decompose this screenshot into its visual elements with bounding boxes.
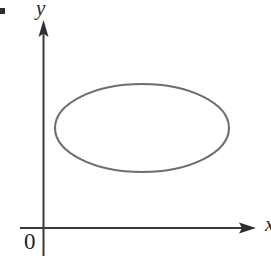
math-figure-canvas: y x 0: [0, 0, 271, 256]
y-axis-label: y: [36, 0, 45, 19]
origin-label: 0: [24, 230, 36, 253]
ellipse-curve: [55, 84, 229, 172]
coordinate-plot-svg: [0, 0, 271, 256]
corner-bullet-mark: [0, 8, 5, 14]
x-axis-label: x: [265, 214, 271, 235]
